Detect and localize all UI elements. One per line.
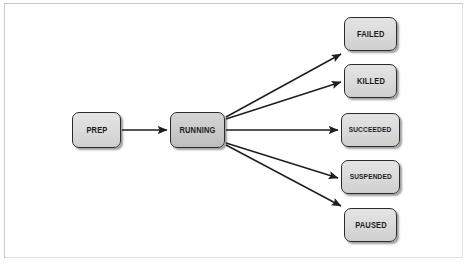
state-node-label: KILLED	[356, 77, 384, 86]
state-node-prep[interactable]: PREP	[72, 112, 121, 148]
state-node-label: SUCCEEDED	[349, 126, 392, 134]
state-node-label: PAUSED	[355, 221, 387, 230]
state-node-failed[interactable]: FAILED	[344, 17, 397, 51]
state-node-label: FAILED	[357, 30, 385, 39]
transition-arrows-layer	[0, 0, 471, 267]
state-node-suspended[interactable]: SUSPENDED	[341, 160, 400, 194]
transition-arrow	[226, 145, 341, 206]
transition-arrow	[226, 54, 341, 117]
state-node-killed[interactable]: KILLED	[344, 64, 397, 98]
transition-arrow	[226, 82, 341, 119]
state-node-succeeded[interactable]: SUCCEEDED	[341, 113, 400, 147]
state-node-paused[interactable]: PAUSED	[344, 208, 397, 242]
state-node-label: SUSPENDED	[349, 173, 391, 181]
diagram-canvas: PREP RUNNING FAILED KILLED SUCCEEDED SUS…	[0, 0, 471, 267]
transition-arrow	[226, 143, 338, 178]
state-diagram-figure: PREP RUNNING FAILED KILLED SUCCEEDED SUS…	[0, 0, 471, 267]
state-node-label: RUNNING	[179, 126, 215, 135]
state-node-running[interactable]: RUNNING	[170, 112, 225, 148]
state-node-label: PREP	[86, 126, 107, 135]
